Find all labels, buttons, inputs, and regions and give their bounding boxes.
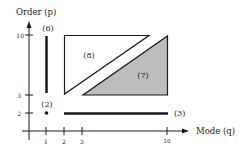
y-tick-label-10: 10 xyxy=(16,32,24,39)
y-axis-arrow-icon xyxy=(27,21,32,28)
region-8-label: (8) xyxy=(83,51,94,60)
x-tick-label-2: 2 xyxy=(62,138,66,145)
y-tick-label-2: 2 xyxy=(17,110,21,117)
x-tick-label-10: 10 xyxy=(164,138,171,144)
x-tick-label-1: 1 xyxy=(44,138,48,145)
y-axis-title: Order (p) xyxy=(16,7,56,17)
region-2-point xyxy=(45,111,49,115)
x-tick-label-3: 3 xyxy=(80,138,84,145)
y-tick-label-3: 3 xyxy=(17,92,21,99)
region-3-label: (3) xyxy=(174,109,185,118)
x-axis-title: Mode (q) xyxy=(196,126,235,136)
region-6-label: (6) xyxy=(42,24,53,33)
order-mode-diagram: 10 3 2 1 2 3 10 Order (p) Mode (q) (6) (… xyxy=(0,0,251,150)
region-7-label: (7) xyxy=(137,71,148,80)
region-2-label: (2) xyxy=(41,100,52,109)
x-axis-arrow-icon xyxy=(182,129,189,134)
